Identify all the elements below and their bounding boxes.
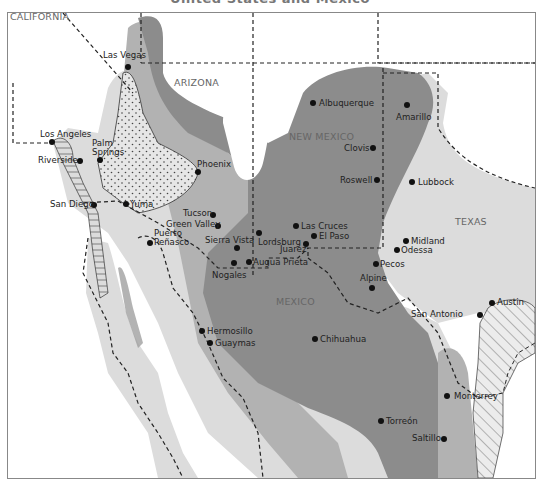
city-marker-lordsburg — [256, 230, 262, 236]
city-label-puerto-penasco: Puerto Peñasco — [154, 229, 194, 247]
city-marker-las-cruces — [293, 223, 299, 229]
city-marker-roswell — [374, 177, 380, 183]
city-label-sierra-vista: Sierra Vista — [205, 235, 254, 245]
city-label-yuma: Yuma — [130, 199, 153, 209]
border-co-ne — [378, 13, 535, 63]
city-label-guaymas: Guaymas — [215, 338, 256, 348]
map-title: United States and Mexico — [0, 0, 540, 6]
city-marker-puerto-penasco — [147, 240, 153, 246]
state-label-colorado: COLORADO — [301, 12, 357, 14]
city-marker-odessa — [394, 247, 400, 253]
city-label-tucson: Tucson — [183, 208, 212, 218]
state-label-texas: TEXAS — [455, 216, 487, 227]
city-marker-lubbock — [409, 179, 415, 185]
state-label-nebraska: NEBRASKA — [448, 12, 501, 14]
city-marker-austin — [489, 300, 495, 306]
city-label-alpine: Alpine — [360, 273, 387, 283]
city-label-odessa: Odessa — [401, 245, 433, 255]
city-marker-midland — [403, 238, 409, 244]
city-label-phoenix: Phoenix — [197, 159, 231, 169]
city-label-riverside: Riverside — [38, 155, 78, 165]
city-marker-san-antonio — [477, 312, 483, 318]
city-marker-chihuahua — [312, 336, 318, 342]
city-marker-amarillo — [404, 102, 410, 108]
city-label-lubbock: Lubbock — [418, 177, 454, 187]
city-label-albuquerque: Albuquerque — [319, 98, 374, 108]
city-marker-albuquerque — [310, 100, 316, 106]
city-label-amarillo: Amarillo — [396, 112, 431, 122]
city-marker-phoenix — [195, 169, 201, 175]
city-marker-monterrey — [444, 393, 450, 399]
city-label-juarez: Juarez — [280, 244, 306, 254]
city-marker-saltillo — [441, 436, 447, 442]
city-label-saltillo: Saltillo — [412, 433, 441, 443]
city-label-palm-springs: Palm Springs — [92, 139, 126, 157]
city-label-los-angeles: Los Angeles — [40, 129, 91, 139]
state-label-utah: UTAH — [185, 12, 211, 14]
state-label-california: CALIFORNIA — [10, 12, 69, 22]
city-label-las-vegas: Las Vegas — [103, 50, 146, 60]
city-label-chihuahua: Chihuahua — [320, 334, 366, 344]
city-marker-augua-prieta — [246, 259, 252, 265]
city-marker-alpine — [369, 285, 375, 291]
city-label-roswell: Roswell — [340, 175, 372, 185]
city-label-clovis: Clovis — [344, 143, 370, 153]
city-marker-el-paso — [311, 233, 317, 239]
city-marker-pecos — [373, 261, 379, 267]
city-label-pecos: Pecos — [380, 259, 405, 269]
city-marker-nogales — [231, 260, 237, 266]
city-label-austin: Austin — [497, 297, 524, 307]
city-label-torreon: Torreón — [386, 416, 418, 426]
city-marker-torreon — [378, 418, 384, 424]
map-frame: CALIFORNIA NEVADA UTAH COLORADO NEBRASKA… — [7, 12, 536, 479]
city-marker-guaymas — [207, 340, 213, 346]
state-label-new-mexico: NEW MEXICO — [289, 131, 354, 142]
city-label-augua-prieta: Augua Prieta — [253, 257, 308, 267]
city-label-monterrey: Monterrey — [454, 391, 498, 401]
city-marker-las-vegas — [125, 64, 131, 70]
city-label-nogales: Nogales — [212, 270, 247, 280]
city-marker-los-angeles — [49, 139, 55, 145]
city-label-el-paso: El Paso — [319, 231, 349, 241]
monterrey-light-region — [438, 348, 478, 478]
state-label-nevada: NEVADA — [88, 12, 128, 14]
state-label-arizona: ARIZONA — [174, 77, 219, 88]
city-marker-riverside — [77, 158, 83, 164]
state-label-mexico: MEXICO — [276, 296, 315, 307]
city-label-las-cruces: Las Cruces — [301, 221, 348, 231]
city-marker-hermosillo — [199, 328, 205, 334]
city-label-san-diego: San Diego — [50, 199, 94, 209]
city-marker-sierra-vista — [234, 245, 240, 251]
city-marker-clovis — [370, 145, 376, 151]
city-label-hermosillo: Hermosillo — [207, 326, 253, 336]
city-marker-palm-springs — [97, 157, 103, 163]
city-label-san-antonio: San Antonio — [411, 309, 463, 319]
city-marker-yuma — [123, 201, 129, 207]
